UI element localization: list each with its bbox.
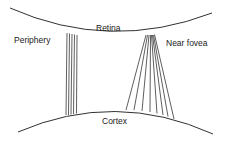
near-fovea-label: Near fovea xyxy=(166,39,208,48)
periphery-line xyxy=(71,34,72,115)
retina-label: Retina xyxy=(96,24,121,33)
periphery-line xyxy=(77,35,78,114)
cortex-label: Cortex xyxy=(102,117,127,126)
periphery-line xyxy=(74,35,75,115)
periphery-label: Periphery xyxy=(14,36,50,45)
periphery-projection-lines xyxy=(66,33,77,115)
periphery-line xyxy=(69,34,70,116)
near-fovea-line xyxy=(150,35,151,112)
retina-cortex-mapping-diagram: Retina Periphery Near fovea Cortex xyxy=(0,0,225,144)
periphery-line xyxy=(66,33,67,115)
